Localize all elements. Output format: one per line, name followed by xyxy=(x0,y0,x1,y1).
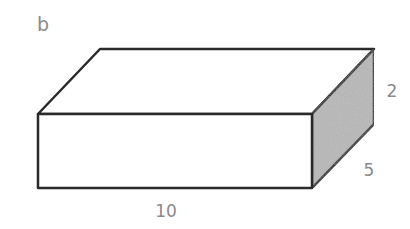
prism-diagram: b 10 5 2 xyxy=(0,0,410,229)
front-face xyxy=(38,114,312,188)
height-label: 2 xyxy=(387,81,398,101)
width-label: 5 xyxy=(364,160,375,180)
length-label: 10 xyxy=(155,201,177,221)
panel-label: b xyxy=(37,13,49,35)
